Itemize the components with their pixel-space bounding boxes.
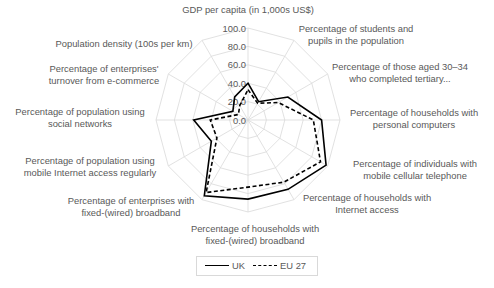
radial-tick-label: 80.0: [228, 41, 246, 52]
axis-label: GDP per capita (in 1,000s US$): [182, 4, 314, 15]
legend-item-uk: UK: [205, 260, 245, 271]
radar-chart: 0.020.040.060.080.0100.0 GDP per capita …: [0, 0, 494, 288]
axis-label: Percentage of population usingsocial net…: [15, 106, 144, 129]
dashed-line-swatch-icon: [253, 265, 277, 266]
axis-label: Percentage of households withpersonal co…: [350, 107, 478, 130]
axis-category-labels: GDP per capita (in 1,000s US$)Percentage…: [15, 4, 478, 246]
axis-label: Percentage of enterprises'turnover from …: [49, 63, 159, 86]
legend: UK EU 27: [196, 256, 318, 276]
radial-tick-label: 0.0: [233, 115, 246, 126]
axis-label: Population density (100s per km): [55, 38, 192, 49]
axis-label: Percentage of households withInternet ac…: [303, 192, 431, 215]
legend-label: UK: [232, 260, 245, 271]
solid-line-swatch-icon: [205, 265, 229, 266]
axis-label: Percentage of enterprises withfixed-(wir…: [68, 195, 195, 218]
legend-label: EU 27: [280, 260, 306, 271]
radar-grid: [156, 28, 340, 212]
radial-tick-label: 60.0: [228, 59, 246, 70]
axis-label: Percentage of population usingmobile Int…: [24, 155, 157, 178]
axis-label: Percentage of those aged 30–34who comple…: [332, 61, 468, 84]
series-eu-27: [206, 90, 320, 193]
legend-item-eu27: EU 27: [253, 260, 306, 271]
axis-label: Percentage of households withfixed-(wire…: [191, 223, 319, 246]
axis-label: Percentage of students andpupils in the …: [299, 23, 414, 46]
radial-tick-label: 100.0: [223, 23, 246, 34]
axis-label: Percentage of individuals withmobile cel…: [353, 158, 477, 181]
